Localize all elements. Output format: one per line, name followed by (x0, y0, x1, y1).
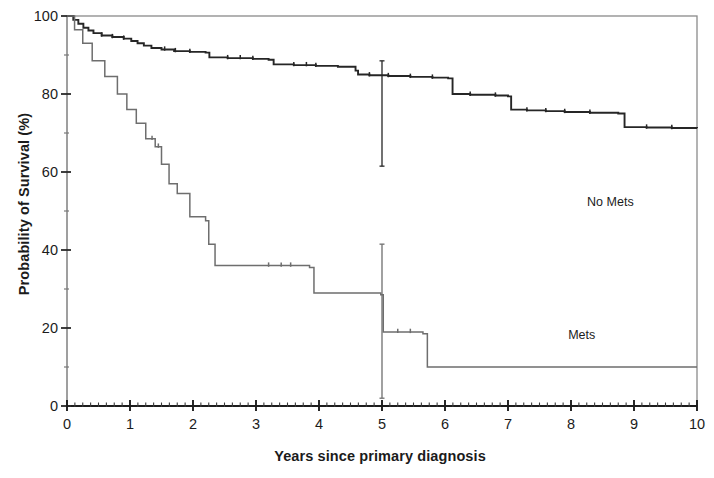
y-axis-ticks (61, 16, 71, 406)
censor-marks (102, 32, 672, 333)
survival-curve-figure: Probability of Survival (%) Years since … (0, 0, 714, 478)
confidence-interval-bars (380, 61, 385, 398)
plot-area (0, 0, 714, 478)
x-axis-ticks (67, 400, 697, 411)
